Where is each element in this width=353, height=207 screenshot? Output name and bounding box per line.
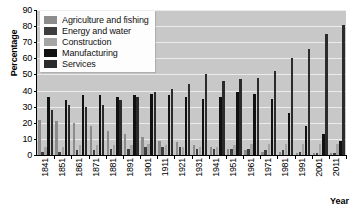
x-axis-tick-label: 2011 bbox=[331, 158, 341, 176]
bar bbox=[299, 152, 301, 155]
bar bbox=[182, 147, 184, 155]
bar bbox=[236, 92, 238, 155]
bar bbox=[107, 131, 109, 155]
y-axis-tick-labels: 0102030405060708090 bbox=[10, 0, 32, 207]
y-axis-tick-label: 60 bbox=[12, 53, 32, 63]
legend-swatch-icon bbox=[44, 38, 57, 46]
bar bbox=[219, 97, 221, 155]
x-axis-tick-label: 1891 bbox=[125, 158, 135, 177]
bar bbox=[141, 137, 143, 155]
bar bbox=[176, 142, 178, 155]
legend-swatch-icon bbox=[44, 49, 57, 57]
bar bbox=[274, 71, 276, 155]
x-axis-tick-label: 1961 bbox=[246, 158, 256, 177]
bar bbox=[308, 49, 310, 155]
bar bbox=[161, 147, 163, 155]
x-axis-tick-label: 1911 bbox=[160, 158, 170, 176]
x-axis-title: Year bbox=[330, 196, 349, 206]
bar bbox=[65, 100, 67, 155]
x-axis-tick-label: 1881 bbox=[108, 158, 118, 177]
bar bbox=[99, 95, 101, 155]
bar bbox=[47, 97, 49, 155]
bar bbox=[339, 141, 341, 156]
legend-swatch-icon bbox=[44, 16, 57, 24]
x-axis-tick bbox=[174, 155, 175, 159]
bar bbox=[90, 126, 92, 155]
bar bbox=[110, 149, 112, 155]
bar bbox=[165, 145, 167, 155]
legend-item: Energy and water bbox=[44, 25, 149, 36]
x-axis-tick-label: 2001 bbox=[314, 158, 324, 177]
bar bbox=[171, 89, 173, 155]
bar bbox=[264, 150, 266, 155]
bar bbox=[302, 144, 304, 155]
bar bbox=[319, 144, 321, 155]
x-axis-tick-label: 1851 bbox=[57, 158, 67, 177]
bar-group bbox=[174, 10, 191, 155]
bar bbox=[261, 152, 263, 155]
x-axis-tick bbox=[123, 155, 124, 159]
x-axis-tick-label: 1931 bbox=[194, 158, 204, 177]
legend-label: Services bbox=[62, 59, 96, 69]
bar bbox=[322, 134, 324, 155]
x-axis-tick bbox=[209, 155, 210, 159]
x-axis-tick bbox=[243, 155, 244, 159]
bar bbox=[188, 84, 190, 155]
bar bbox=[93, 150, 95, 155]
x-axis-tick bbox=[71, 155, 72, 159]
bar-group bbox=[209, 10, 226, 155]
bar bbox=[154, 92, 156, 155]
x-axis-tick bbox=[89, 155, 90, 159]
bar bbox=[130, 145, 132, 155]
bar bbox=[342, 25, 344, 156]
bar bbox=[313, 153, 315, 155]
x-axis-tick bbox=[157, 155, 158, 159]
x-axis-tick-label: 1841 bbox=[40, 158, 50, 177]
bar bbox=[144, 147, 146, 155]
bar bbox=[325, 34, 327, 155]
bar bbox=[305, 126, 307, 155]
bar bbox=[147, 144, 149, 155]
y-axis-tick bbox=[34, 155, 37, 156]
bar bbox=[285, 144, 287, 155]
legend-label: Manufacturing bbox=[62, 48, 118, 58]
x-axis-tick bbox=[226, 155, 227, 159]
bar bbox=[68, 105, 70, 155]
bar bbox=[62, 147, 64, 155]
x-axis-tick bbox=[106, 155, 107, 159]
bar bbox=[185, 97, 187, 155]
bar-group bbox=[295, 10, 312, 155]
bar bbox=[113, 145, 115, 155]
bar bbox=[244, 150, 246, 155]
bar bbox=[291, 58, 293, 155]
bar bbox=[58, 152, 60, 155]
bar bbox=[127, 149, 129, 155]
legend-item: Services bbox=[44, 58, 149, 69]
bar bbox=[250, 144, 252, 155]
legend-item: Manufacturing bbox=[44, 47, 149, 58]
x-axis-tick-label: 1941 bbox=[211, 158, 221, 177]
bar bbox=[199, 147, 201, 155]
bar bbox=[330, 153, 332, 155]
bar bbox=[268, 144, 270, 155]
bar-group bbox=[329, 10, 346, 155]
bar bbox=[133, 95, 135, 155]
x-axis-tick-label: 1921 bbox=[177, 158, 187, 177]
bar bbox=[288, 113, 290, 155]
bar bbox=[179, 147, 181, 155]
bar bbox=[73, 123, 75, 155]
bar-chart: Percentage 0102030405060708090 Year Agri… bbox=[0, 0, 353, 207]
bar bbox=[82, 95, 84, 155]
x-axis-tick bbox=[192, 155, 193, 159]
bar bbox=[257, 78, 259, 155]
bar bbox=[124, 134, 126, 155]
x-axis-tick-label: 1971 bbox=[263, 158, 273, 177]
y-axis-tick-label: 90 bbox=[12, 5, 32, 15]
bar bbox=[271, 99, 273, 155]
y-axis-tick-label: 80 bbox=[12, 21, 32, 31]
bar bbox=[38, 120, 40, 155]
y-axis-tick-label: 30 bbox=[12, 102, 32, 112]
y-axis-tick-label: 50 bbox=[12, 69, 32, 79]
x-axis-tick bbox=[329, 155, 330, 159]
bar bbox=[55, 121, 57, 155]
